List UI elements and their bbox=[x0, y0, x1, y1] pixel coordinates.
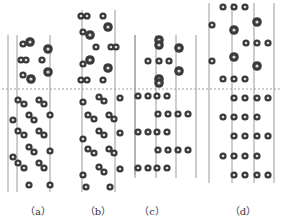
atom-small-highlight bbox=[267, 97, 270, 100]
atom-large-highlight bbox=[106, 66, 109, 69]
atom-large-highlight bbox=[157, 43, 160, 46]
atom-large-highlight bbox=[46, 47, 49, 50]
atom-small-highlight bbox=[80, 79, 83, 82]
atom-small-highlight bbox=[33, 119, 36, 122]
atom-small-highlight bbox=[12, 119, 15, 122]
atom-small-highlight bbox=[166, 95, 169, 98]
atom-small-highlight bbox=[211, 60, 214, 63]
atom-small-highlight bbox=[87, 114, 90, 117]
atom-small-highlight bbox=[167, 149, 170, 152]
atom-small-highlight bbox=[233, 174, 236, 177]
atom-large-highlight bbox=[106, 25, 109, 28]
atom-small-highlight bbox=[17, 130, 20, 133]
atom-small-highlight bbox=[98, 130, 101, 133]
atom-small-highlight bbox=[245, 42, 248, 45]
atom-small-highlight bbox=[115, 46, 118, 49]
panel-a bbox=[8, 35, 54, 192]
atom-small-highlight bbox=[211, 24, 214, 27]
panel-c bbox=[134, 35, 196, 178]
atom-small-highlight bbox=[28, 114, 31, 117]
atom-small-highlight bbox=[103, 100, 106, 103]
atom-large-highlight bbox=[29, 77, 32, 80]
atom-small-highlight bbox=[38, 99, 41, 102]
atom-small-highlight bbox=[22, 43, 25, 46]
atom-small-highlight bbox=[23, 103, 26, 106]
atom-small-highlight bbox=[119, 132, 122, 135]
atom-small-highlight bbox=[98, 96, 101, 99]
atom-small-highlight bbox=[233, 135, 236, 138]
atomic-structure-figure bbox=[0, 0, 282, 220]
atom-small-highlight bbox=[113, 118, 116, 121]
atom-small-highlight bbox=[17, 99, 20, 102]
atom-small-highlight bbox=[87, 148, 90, 151]
atom-large-highlight bbox=[177, 69, 180, 72]
panel-b bbox=[77, 10, 135, 192]
panel-label-b: （b） bbox=[85, 203, 111, 218]
atom-small-highlight bbox=[113, 152, 116, 155]
atom-small-highlight bbox=[147, 60, 150, 63]
atom-small-highlight bbox=[158, 60, 161, 63]
atom-small-highlight bbox=[49, 114, 52, 117]
atom-small-highlight bbox=[233, 78, 236, 81]
atom-small-highlight bbox=[108, 148, 111, 151]
atom-small-highlight bbox=[244, 97, 247, 100]
atom-small-highlight bbox=[103, 134, 106, 137]
atom-small-highlight bbox=[168, 60, 171, 63]
atom-small-highlight bbox=[256, 174, 259, 177]
atom-small-highlight bbox=[103, 171, 106, 174]
atom-small-highlight bbox=[156, 131, 159, 134]
atom-small-highlight bbox=[49, 150, 52, 153]
atom-small-highlight bbox=[222, 155, 225, 158]
atom-small-highlight bbox=[256, 135, 259, 138]
atom-small-highlight bbox=[108, 114, 111, 117]
atom-small-highlight bbox=[80, 15, 83, 18]
atom-small-highlight bbox=[82, 63, 85, 66]
atom-large-highlight bbox=[88, 33, 91, 36]
atom-small-highlight bbox=[86, 79, 89, 82]
atom-small-highlight bbox=[82, 138, 85, 141]
atom-small-highlight bbox=[33, 151, 36, 154]
atom-small-highlight bbox=[244, 155, 247, 158]
panel-d bbox=[208, 3, 274, 183]
atom-small-highlight bbox=[157, 149, 160, 152]
atom-small-highlight bbox=[98, 166, 101, 169]
atom-small-highlight bbox=[25, 59, 28, 62]
atom-small-highlight bbox=[82, 101, 85, 104]
atom-small-highlight bbox=[110, 46, 113, 49]
atom-small-highlight bbox=[17, 162, 20, 165]
atom-small-highlight bbox=[166, 131, 169, 134]
atom-small-highlight bbox=[147, 167, 150, 170]
atom-large-highlight bbox=[46, 70, 49, 73]
atom-small-highlight bbox=[82, 31, 85, 34]
panel-label-d: （d） bbox=[230, 203, 256, 218]
atom-small-highlight bbox=[41, 59, 44, 62]
atom-small-highlight bbox=[147, 95, 150, 98]
atom-small-highlight bbox=[38, 162, 41, 165]
atom-small-highlight bbox=[20, 59, 23, 62]
atom-small-highlight bbox=[28, 146, 31, 149]
atom-small-highlight bbox=[23, 134, 26, 137]
atom-small-highlight bbox=[256, 155, 259, 158]
atom-small-highlight bbox=[43, 134, 46, 137]
atom-large-highlight bbox=[88, 58, 91, 61]
atom-small-highlight bbox=[233, 116, 236, 119]
atom-small-highlight bbox=[244, 135, 247, 138]
atom-large-highlight bbox=[255, 64, 258, 67]
atom-small-highlight bbox=[93, 152, 96, 155]
atom-small-highlight bbox=[256, 42, 259, 45]
atom-small-highlight bbox=[256, 97, 259, 100]
atom-small-highlight bbox=[167, 113, 170, 116]
atom-small-highlight bbox=[177, 149, 180, 152]
atom-small-highlight bbox=[23, 167, 26, 170]
atom-small-highlight bbox=[102, 79, 105, 82]
atom-small-highlight bbox=[12, 156, 15, 159]
atom-small-highlight bbox=[156, 95, 159, 98]
atom-small-highlight bbox=[157, 113, 160, 116]
atom-small-highlight bbox=[43, 103, 46, 106]
atom-small-highlight bbox=[222, 78, 225, 81]
atom-small-highlight bbox=[38, 130, 41, 133]
atom-small-highlight bbox=[43, 167, 46, 170]
panel-label-a: （a） bbox=[25, 203, 51, 218]
atom-small-highlight bbox=[233, 97, 236, 100]
atom-small-highlight bbox=[102, 15, 105, 18]
